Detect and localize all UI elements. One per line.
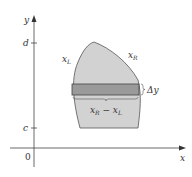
height-brace (141, 84, 145, 95)
c-label: c (23, 123, 28, 133)
left-curve-label: xL (62, 54, 71, 65)
x-axis-label: x (180, 153, 185, 163)
right-curve-label: xR (128, 50, 138, 61)
delta-y-label: Δy (146, 85, 159, 95)
y-axis-arrow-icon (32, 15, 37, 22)
origin-label: 0 (25, 152, 31, 162)
x-axis-arrow-icon (179, 146, 186, 151)
region-diagram: y x 0 d c xL xR Δy xR − xL (0, 0, 192, 177)
strip-width-label: xR − xL (90, 105, 122, 116)
horizontal-strip (72, 84, 139, 95)
y-axis-label: y (23, 15, 30, 25)
d-label: d (23, 38, 29, 48)
